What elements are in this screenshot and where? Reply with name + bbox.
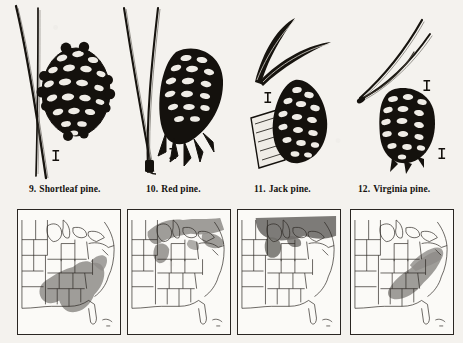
- virginia-pine-range-map: [351, 210, 453, 334]
- range-map-shortleaf-pine: [17, 209, 121, 335]
- caption-shortleaf-pine: 9.Shortleaf pine.: [29, 184, 100, 194]
- specimen-illustration-jack-pine: [233, 0, 348, 182]
- red-pine-cone: [158, 48, 223, 166]
- jack-pine-drawing: [233, 0, 348, 182]
- scale-bar-icon: [265, 92, 272, 103]
- needle-sheath: [145, 160, 154, 172]
- caption-name-11: Jack pine.: [269, 184, 311, 194]
- specimen-illustrations-row: [0, 0, 463, 182]
- red-pine-range-map: [128, 210, 230, 334]
- specimen-captions-row: 9.Shortleaf pine. 10.Red pine. 11.Jack p…: [0, 184, 463, 204]
- specimen-illustration-red-pine: [118, 0, 233, 182]
- caption-name-9: Shortleaf pine.: [39, 184, 100, 194]
- caption-name-12: Virginia pine.: [373, 184, 430, 194]
- specimen-illustration-shortleaf-pine: [8, 0, 123, 182]
- caption-red-pine: 10.Red pine.: [146, 184, 201, 194]
- caption-name-10: Red pine.: [161, 184, 200, 194]
- caption-number-10: 10.: [146, 184, 158, 194]
- scale-bar-icon: [424, 80, 431, 91]
- shortleaf-pine-drawing: [8, 0, 123, 182]
- range-map-red-pine: [127, 209, 231, 335]
- caption-jack-pine: 11.Jack pine.: [254, 184, 311, 194]
- caption-number-9: 9.: [29, 184, 36, 194]
- virginia-pine-cone: [379, 88, 435, 174]
- scale-bar-secondary-icon: [439, 148, 446, 159]
- jack-pine-range-map: [238, 210, 340, 334]
- shortleaf-pine-cone: [37, 42, 116, 141]
- caption-virginia-pine: 12.Virginia pine.: [358, 184, 430, 194]
- range-map-virginia-pine: [350, 209, 454, 335]
- range-maps-row: [0, 209, 463, 339]
- pine-species-plate: 9.Shortleaf pine. 10.Red pine. 11.Jack p…: [0, 0, 463, 343]
- caption-number-11: 11.: [254, 184, 266, 194]
- scale-bar-icon: [53, 150, 60, 161]
- red-pine-drawing: [118, 0, 233, 182]
- virginia-pine-drawing: [348, 0, 463, 182]
- jack-pine-cone: [273, 80, 327, 163]
- shortleaf-pine-range-map: [18, 210, 120, 334]
- specimen-illustration-virginia-pine: [348, 0, 463, 182]
- caption-number-12: 12.: [358, 184, 370, 194]
- range-map-jack-pine: [237, 209, 341, 335]
